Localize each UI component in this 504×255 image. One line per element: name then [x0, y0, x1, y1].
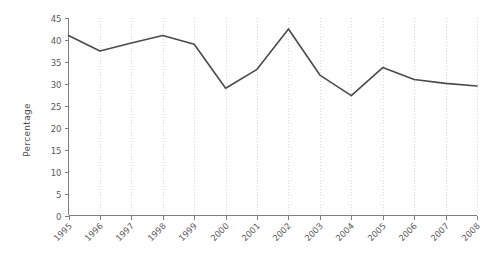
line-chart: 051015202530354045 199519961997199819992…: [0, 0, 504, 255]
x-tick-label: 1999: [177, 221, 199, 243]
x-tick-label: 1998: [146, 221, 168, 243]
x-axis-ticks: 1995199619971998199920002001200220032004…: [52, 216, 482, 244]
x-tick-label: 2008: [460, 221, 482, 243]
x-tick-label: 2001: [240, 221, 262, 243]
y-axis-ticks: 051015202530354045: [51, 14, 69, 222]
x-tick-label: 2005: [366, 221, 388, 243]
x-tick-label: 1995: [52, 221, 74, 243]
x-tick-label: 2002: [271, 221, 293, 243]
x-tick-label: 2000: [209, 221, 231, 243]
y-tick-label: 20: [51, 124, 62, 134]
x-tick-label: 1997: [114, 221, 136, 243]
y-tick-label: 45: [51, 14, 62, 24]
y-tick-label: 15: [51, 146, 62, 156]
x-tick-label: 2004: [334, 221, 356, 243]
gridlines: [101, 18, 478, 216]
x-tick-label: 2007: [429, 221, 451, 243]
data-series-line: [69, 29, 478, 96]
chart-canvas: 051015202530354045 199519961997199819992…: [0, 0, 504, 255]
y-tick-label: 0: [56, 212, 61, 222]
y-axis-label: Percentage: [22, 103, 32, 157]
y-tick-label: 10: [51, 168, 62, 178]
y-tick-label: 25: [51, 102, 62, 112]
x-tick-label: 2003: [303, 221, 325, 243]
y-tick-label: 35: [51, 58, 62, 68]
y-tick-label: 5: [56, 190, 61, 200]
y-tick-label: 40: [51, 36, 62, 46]
x-tick-label: 1996: [83, 221, 105, 243]
x-tick-label: 2006: [397, 221, 419, 243]
y-tick-label: 30: [51, 80, 62, 90]
